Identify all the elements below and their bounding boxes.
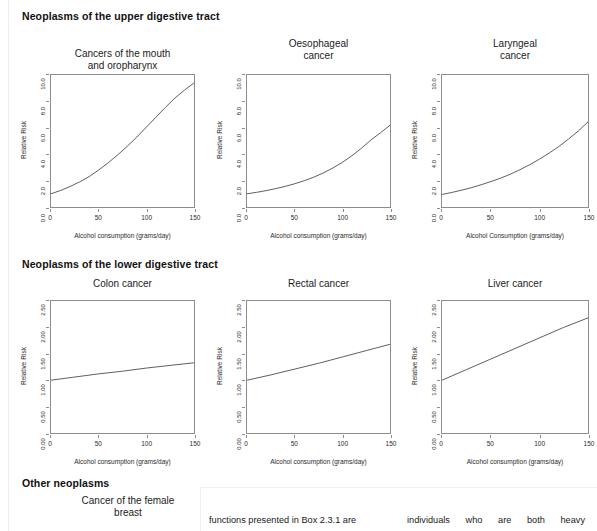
chart-panel-colon: Colon cancer0.000.501.001.502.002.500501… <box>14 278 207 480</box>
x-axis-label-laryngeal: Alcohol Consumption (grams/day) <box>441 232 589 239</box>
y-tick-label: 6.0 <box>431 127 437 149</box>
page-edge-line <box>8 0 9 531</box>
y-tick-mark <box>437 154 440 155</box>
x-tick-label: 0 <box>426 440 456 447</box>
y-axis-label-mouth-oropharynx: Relative Risk <box>20 121 27 159</box>
x-tick-mark <box>343 209 344 212</box>
y-axis-label-laryngeal: Relative Risk <box>411 121 418 159</box>
y-tick-label: 8.0 <box>431 100 437 122</box>
y-axis-label-colon: Relative Risk <box>20 347 27 385</box>
y-tick-label: 4.0 <box>40 153 46 175</box>
x-tick-mark <box>246 435 247 438</box>
y-tick-label: 8.0 <box>236 100 242 122</box>
y-tick-mark <box>46 181 49 182</box>
x-tick-label: 100 <box>328 440 358 447</box>
x-tick-mark <box>246 209 247 212</box>
x-tick-mark <box>195 435 196 438</box>
y-tick-label: 10.0 <box>236 73 242 95</box>
x-tick-mark <box>391 209 392 212</box>
x-tick-label: 100 <box>328 214 358 221</box>
x-tick-mark <box>343 435 344 438</box>
chart-panel-rectal: Rectal cancer0.000.501.001.502.002.50050… <box>210 278 403 480</box>
y-tick-label: 0.50 <box>40 406 46 428</box>
y-tick-mark <box>242 154 245 155</box>
x-tick-mark <box>391 435 392 438</box>
chart-panel-laryngeal: Laryngealcancer0.02.04.06.08.010.0050100… <box>405 38 597 254</box>
x-tick-label: 0 <box>426 214 456 221</box>
y-tick-mark <box>46 407 49 408</box>
panel-title-line1: Cancer of the female <box>38 495 218 507</box>
chart-title-line2: cancer <box>246 50 391 62</box>
y-axis-label-rectal: Relative Risk <box>216 347 223 385</box>
y-tick-label: 1.50 <box>40 353 46 375</box>
x-tick-mark <box>98 435 99 438</box>
y-tick-label: 1.50 <box>236 353 242 375</box>
y-tick-label: 4.0 <box>431 153 437 175</box>
y-tick-mark <box>242 74 245 75</box>
y-tick-label: 1.50 <box>431 353 437 375</box>
y-tick-label: 8.0 <box>40 100 46 122</box>
x-tick-mark <box>490 209 491 212</box>
y-tick-label: 1.00 <box>40 379 46 401</box>
y-tick-mark <box>242 181 245 182</box>
x-tick-mark <box>147 435 148 438</box>
x-tick-label: 50 <box>475 214 505 221</box>
x-axis-label-colon: Alcohol consumption (grams/day) <box>50 458 195 465</box>
y-tick-mark <box>46 380 49 381</box>
body-text-box: functions presented in Box 2.3.1 are ind… <box>200 487 597 531</box>
chart-title-rectal: Rectal cancer <box>246 278 391 290</box>
y-tick-mark <box>437 74 440 75</box>
y-tick-label: 2.0 <box>236 180 242 202</box>
x-tick-mark <box>490 435 491 438</box>
x-tick-label: 0 <box>35 214 65 221</box>
y-tick-label: 2.50 <box>40 299 46 321</box>
x-tick-mark <box>540 435 541 438</box>
y-tick-mark <box>46 128 49 129</box>
x-axis-label-mouth-oropharynx: Alcohol consumption (grams/day) <box>50 232 195 239</box>
y-tick-label: 0.50 <box>431 406 437 428</box>
x-tick-label: 0 <box>35 440 65 447</box>
y-tick-label: 10.0 <box>431 73 437 95</box>
plot-area-oesophageal <box>246 74 391 208</box>
x-tick-mark <box>195 209 196 212</box>
chart-title-liver: Liver cancer <box>441 278 589 290</box>
y-tick-label: 2.00 <box>40 326 46 348</box>
x-axis-label-oesophageal: Alcohol consumption (grams/day) <box>246 232 391 239</box>
x-tick-label: 150 <box>574 214 597 221</box>
x-tick-mark <box>294 209 295 212</box>
chart-panel-oesophageal: Oesophagealcancer0.02.04.06.08.010.00501… <box>210 38 403 254</box>
x-tick-label: 0 <box>231 214 261 221</box>
y-tick-label: 6.0 <box>40 127 46 149</box>
y-tick-label: 2.50 <box>431 299 437 321</box>
y-tick-mark <box>46 354 49 355</box>
x-tick-label: 150 <box>376 440 406 447</box>
y-tick-mark <box>242 300 245 301</box>
plot-area-mouth-oropharynx <box>50 74 195 208</box>
risk-curve-colon <box>51 363 194 380</box>
chart-title-line1: Laryngeal <box>441 38 589 50</box>
y-tick-mark <box>437 327 440 328</box>
panel-female-breast: Cancer of the female breast <box>38 495 218 529</box>
y-tick-mark <box>46 434 49 435</box>
risk-curve-mouth-oropharynx <box>51 83 194 194</box>
panel-title-female-breast: Cancer of the female breast <box>38 495 218 519</box>
x-tick-label: 150 <box>376 214 406 221</box>
x-tick-label: 100 <box>525 214 555 221</box>
y-tick-label: 2.0 <box>431 180 437 202</box>
chart-title-line1: Liver cancer <box>441 278 589 290</box>
x-axis-label-rectal: Alcohol consumption (grams/day) <box>246 458 391 465</box>
chart-title-oesophageal: Oesophagealcancer <box>246 38 391 62</box>
risk-curve-laryngeal <box>442 122 588 195</box>
x-tick-mark <box>589 209 590 212</box>
plot-area-colon <box>50 300 195 434</box>
y-tick-mark <box>437 101 440 102</box>
x-tick-mark <box>441 435 442 438</box>
x-tick-mark <box>589 435 590 438</box>
y-tick-mark <box>437 208 440 209</box>
y-tick-label: 2.00 <box>431 326 437 348</box>
x-tick-label: 100 <box>132 440 162 447</box>
x-tick-label: 50 <box>83 214 113 221</box>
y-tick-mark <box>242 208 245 209</box>
y-tick-mark <box>242 354 245 355</box>
y-tick-mark <box>242 380 245 381</box>
